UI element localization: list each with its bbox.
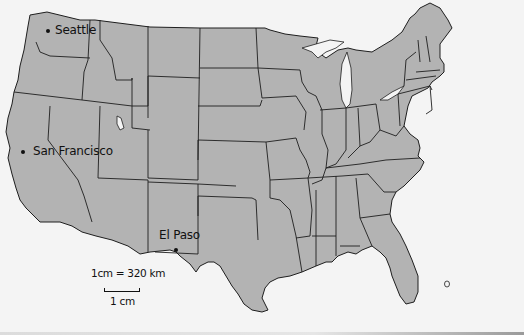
lake-okeechobee	[445, 281, 450, 287]
us-map	[0, 0, 524, 335]
seattle-dot	[46, 29, 50, 33]
city-label-san-francisco: San Francisco	[33, 144, 113, 158]
san-francisco-dot	[21, 150, 25, 154]
city-label-seattle: Seattle	[55, 23, 96, 37]
scale-ratio-label: 1cm = 320 km	[91, 267, 165, 279]
el-paso-dot	[174, 248, 178, 252]
scale-bar	[104, 288, 140, 292]
city-label-el-paso: El Paso	[159, 228, 200, 242]
scale-bar-label: 1 cm	[110, 295, 135, 307]
